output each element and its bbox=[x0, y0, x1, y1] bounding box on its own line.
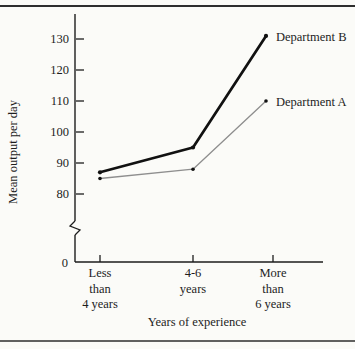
y-tick-label: 120 bbox=[50, 63, 69, 77]
y-axis-break-mark bbox=[70, 221, 80, 235]
data-point-marker bbox=[98, 170, 102, 174]
data-point-marker bbox=[191, 167, 195, 171]
data-point-marker bbox=[191, 145, 195, 149]
data-point-marker bbox=[264, 99, 268, 103]
data-point-marker bbox=[98, 177, 102, 181]
legend-label-department-a: Department A bbox=[276, 95, 346, 109]
data-point-marker bbox=[264, 34, 268, 38]
y-tick-label: 130 bbox=[50, 32, 69, 46]
y-axis-title: Mean output per day bbox=[6, 99, 20, 204]
x-category-label: More bbox=[259, 266, 287, 280]
y-tick-label: 100 bbox=[50, 125, 69, 139]
x-axis-title: Years of experience bbox=[148, 315, 247, 329]
y-tick-label: 110 bbox=[51, 94, 69, 108]
x-category-label: years bbox=[180, 282, 207, 296]
y-tick-label: 90 bbox=[57, 156, 70, 170]
x-category-label: 4-6 bbox=[185, 266, 202, 280]
x-category-label: than bbox=[262, 282, 284, 296]
x-category-label: Less bbox=[89, 266, 112, 280]
origin-label: 0 bbox=[62, 256, 68, 270]
series-line-department-b bbox=[100, 36, 266, 172]
x-category-label: 6 years bbox=[255, 297, 291, 311]
legend-label-department-b: Department B bbox=[276, 30, 346, 44]
x-category-label: 4 years bbox=[82, 297, 118, 311]
x-category-label: than bbox=[89, 282, 111, 296]
y-tick-label: 80 bbox=[57, 187, 70, 201]
chart-svg: 13012011010090800Lessthan4 years4-6years… bbox=[0, 0, 355, 349]
line-chart-figure: 13012011010090800Lessthan4 years4-6years… bbox=[0, 0, 355, 349]
